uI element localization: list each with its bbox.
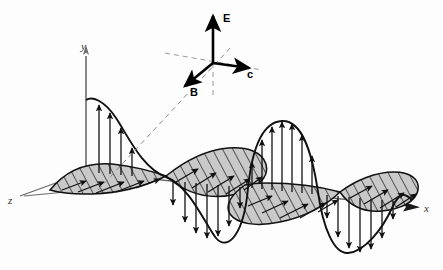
label-E: E	[223, 12, 230, 24]
b-field-wave	[50, 148, 418, 225]
label-axis-z: z	[7, 194, 13, 206]
b-lobe-1	[50, 164, 166, 194]
vector-c	[213, 63, 249, 68]
figure-canvas: E B c y z x	[0, 0, 443, 270]
em-wave-diagram: E B c y z x	[0, 0, 443, 270]
vector-B	[185, 63, 213, 86]
label-B: B	[190, 86, 198, 98]
vector-triad	[165, 16, 262, 95]
label-c: c	[247, 68, 253, 80]
label-axis-y: y	[80, 40, 86, 52]
label-axis-x: x	[423, 202, 429, 214]
